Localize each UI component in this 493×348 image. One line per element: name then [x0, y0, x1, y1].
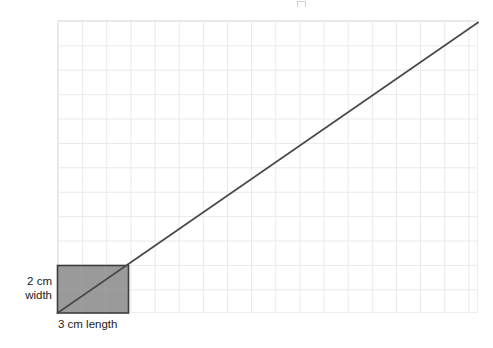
clipped-header-icon — [297, 1, 306, 7]
length-label: 3 cm length — [58, 317, 117, 331]
width-label-line1: 2 cm — [0, 274, 52, 288]
graph-paper-grid — [57, 20, 478, 313]
diagram-canvas: 2 cm width 3 cm length — [0, 0, 493, 348]
clipped-header-remnant — [168, 0, 320, 7]
width-label-line2: width — [0, 288, 52, 302]
width-label: 2 cm width — [0, 274, 52, 302]
